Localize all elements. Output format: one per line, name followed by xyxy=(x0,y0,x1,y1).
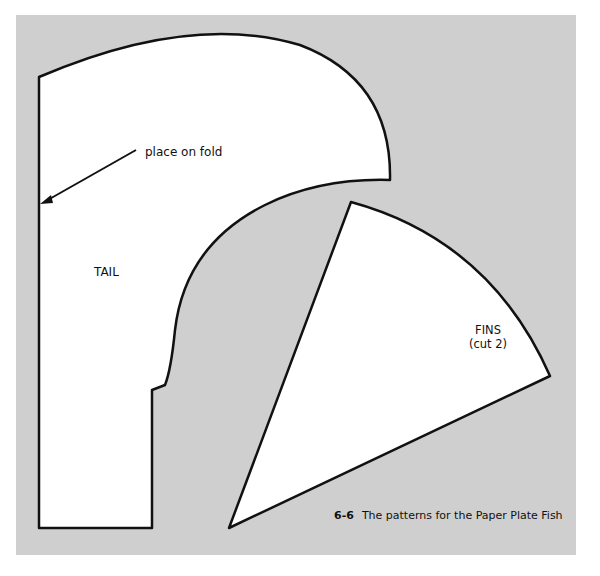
tail-label: TAIL xyxy=(94,265,119,279)
fins-label-group: FINS (cut 2) xyxy=(469,323,507,351)
figure-caption-text: The patterns for the Paper Plate Fish xyxy=(362,509,563,522)
fins-cut-note: (cut 2) xyxy=(469,337,507,351)
figure-caption: 6-6The patterns for the Paper Plate Fish xyxy=(334,509,563,523)
figure-number: 6-6 xyxy=(334,509,354,522)
fins-pattern-shape xyxy=(229,202,550,528)
fins-label: FINS xyxy=(469,323,507,337)
fold-annotation: place on fold xyxy=(145,145,222,159)
pattern-drawing xyxy=(0,0,600,576)
